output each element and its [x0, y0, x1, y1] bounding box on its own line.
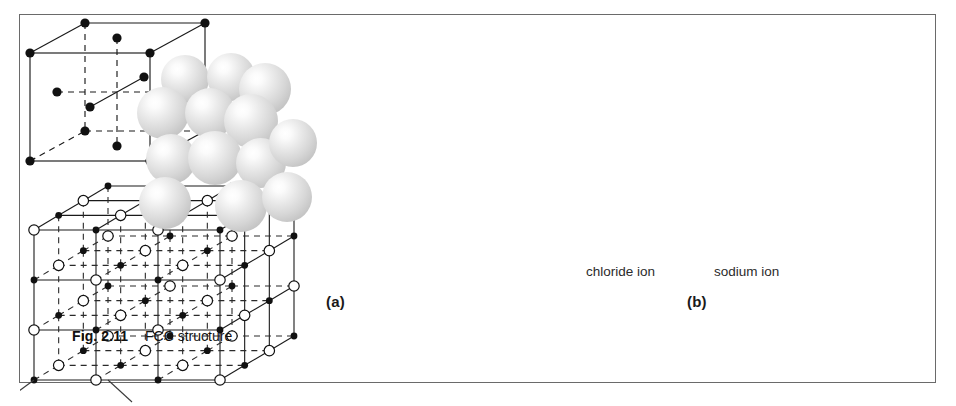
atom-sphere: [139, 177, 191, 229]
sodium-ion: [80, 347, 87, 354]
chloride-ion: [53, 260, 63, 270]
sodium-ion: [241, 262, 248, 269]
chloride-ion: [115, 310, 125, 320]
chloride-ion: [78, 195, 88, 205]
chloride-ion-label: chloride ion: [586, 264, 655, 279]
atom-sphere: [137, 87, 189, 139]
atom-sphere: [188, 131, 242, 185]
figure-frame: (a) (b) chloride ion sodium ion Fig. 2.1…: [19, 14, 936, 383]
figure-caption-text: FCC structure: [145, 328, 232, 344]
sodium-ion-label: sodium ion: [714, 264, 779, 279]
chloride-ion: [202, 295, 212, 305]
sodium-ion: [142, 297, 149, 304]
sodium-ion: [266, 297, 273, 304]
sodium-ion: [241, 362, 248, 369]
sodium-ion: [31, 277, 38, 284]
sodium-ion: [155, 277, 162, 284]
sodium-ion: [105, 283, 112, 290]
chloride-ion: [264, 345, 274, 355]
chloride-ion: [103, 231, 113, 241]
chloride-ion: [215, 375, 225, 385]
chloride-ion: [91, 375, 101, 385]
chloride-ion: [29, 225, 39, 235]
atom-sphere: [262, 172, 312, 222]
chloride-ion: [91, 275, 101, 285]
sodium-ion: [55, 312, 62, 319]
chloride-ion: [29, 325, 39, 335]
figure-caption: Fig. 2.11 FCC structure: [72, 328, 232, 344]
chloride-ion: [177, 260, 187, 270]
callout-leader-lines: [20, 380, 132, 402]
chloride-ion: [239, 310, 249, 320]
sodium-ion: [155, 377, 162, 384]
sodium-ion: [105, 183, 112, 190]
sodium-ion: [117, 262, 124, 269]
atom-sphere: [215, 180, 267, 232]
chloride-ion: [78, 295, 88, 305]
sodium-ion: [117, 362, 124, 369]
sodium-ion: [291, 333, 298, 340]
sodium-ion: [93, 227, 100, 234]
chloride-ion: [53, 360, 63, 370]
chloride-ion: [177, 360, 187, 370]
sodium-ion: [179, 312, 186, 319]
sodium-ion: [229, 283, 236, 290]
atom-sphere: [269, 119, 317, 167]
sodium-ion: [204, 347, 211, 354]
sodium-ion: [80, 247, 87, 254]
chloride-ion: [215, 275, 225, 285]
chloride-ion: [140, 345, 150, 355]
panel-label-b: (b): [687, 293, 707, 310]
sodium-ion: [55, 212, 62, 219]
figure-caption-number: Fig. 2.11: [72, 328, 128, 344]
fcc-sphere-model: [125, 51, 320, 251]
chloride-ion: [165, 281, 175, 291]
panel-label-a: (a): [326, 293, 345, 310]
chloride-ion: [289, 281, 299, 291]
